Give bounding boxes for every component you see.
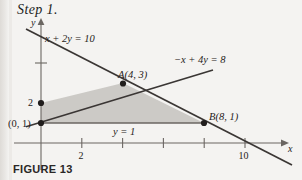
figure-graph: 2 10 2 x y x + 2y = 10 −x + 4y = 8 y = 1… [0, 0, 302, 180]
label-line-y-equals-1: y = 1 [112, 126, 135, 137]
figure-page: Step 1. 2 10 2 x y [0, 0, 302, 180]
x-axis-name: x [287, 143, 293, 154]
figure-caption: FIGURE 13 [13, 163, 73, 175]
x-tick-label-10: 10 [239, 150, 249, 161]
point-a-dot [120, 80, 126, 86]
y-axis-arrow [38, 18, 45, 25]
shaded-feasible-region [41, 83, 204, 123]
y-tick-label-2: 2 [28, 97, 33, 108]
label-point-origin: (0, 1) [8, 118, 31, 130]
x-tick-label-2: 2 [79, 150, 84, 161]
label-point-b: B(8, 1) [209, 111, 239, 123]
point-y2-dot [38, 100, 44, 106]
label-line-neg-x-plus-4y: −x + 4y = 8 [174, 54, 226, 65]
label-point-a: A(4, 3) [117, 69, 148, 81]
point-b-dot [201, 120, 207, 126]
point-origin-dot [38, 120, 44, 126]
y-axis-name: y [30, 17, 36, 28]
label-line-x-plus-2y: x + 2y = 10 [44, 33, 95, 44]
